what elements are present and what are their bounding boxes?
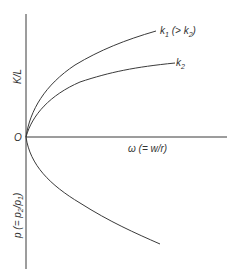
- curve-k2: [26, 63, 175, 137]
- y-axis-lower-label: p (= p2/p1): [12, 193, 24, 239]
- curve-k2-label: k2: [176, 57, 185, 70]
- curve-k1-label: k1 (> k2): [160, 25, 196, 38]
- curve-k1: [26, 31, 156, 137]
- y-axis-upper-label: K/L: [12, 69, 23, 84]
- diagram: O K/L p (= p2/p1) ω (= w/r) k1 (> k2) k2: [0, 0, 240, 277]
- origin-label: O: [14, 132, 22, 143]
- x-axis-label: ω (= w/r): [128, 143, 167, 154]
